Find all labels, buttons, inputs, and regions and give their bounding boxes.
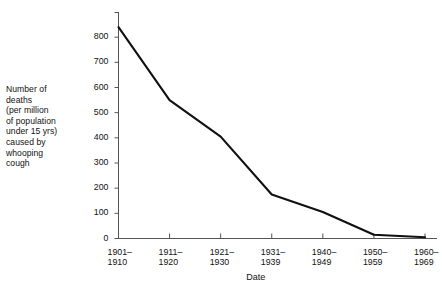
data-series-line [119,27,426,237]
y-axis-tick-label: 800 [83,32,109,41]
y-axis-tick-label: 500 [83,108,109,117]
y-axis-tick-label: 400 [83,133,109,142]
x-axis-tick-label: 1921– 1930 [210,247,256,268]
x-axis-tick-label: 1950– 1959 [363,247,409,268]
x-axis-tick-label: 1940– 1949 [312,247,358,268]
y-axis-ticks [115,13,119,239]
x-axis-tick-label: 1960– 1969 [414,247,442,268]
chart-figure: Number of deaths (per million of populat… [0,0,442,293]
x-axis-tick-label: 1911– 1920 [159,247,205,268]
y-axis-tick-label: 300 [83,158,109,167]
x-axis-tick-label: 1931– 1939 [261,247,307,268]
x-axis-tick-label: 1901– 1910 [108,247,154,268]
y-axis-tick-label: 100 [83,208,109,217]
x-axis-title: Date [226,272,286,282]
y-axis-tick-label: 700 [83,57,109,66]
y-axis-tick-label: 0 [83,234,109,243]
y-axis-tick-label: 200 [83,183,109,192]
y-axis-tick-label: 600 [83,83,109,92]
